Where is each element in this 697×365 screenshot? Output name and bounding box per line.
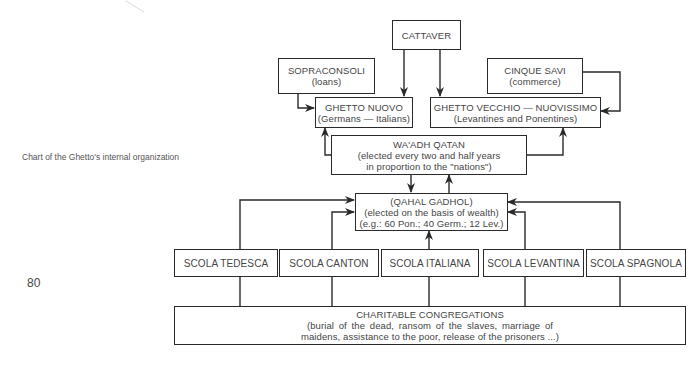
- node-title: SCOLA LEVANTINA: [487, 258, 579, 269]
- node-title: (QAHAL GADHOL): [390, 196, 472, 207]
- node-title: SCOLA ITALIANA: [389, 258, 470, 269]
- node-scola-spagnola: SCOLA SPAGNOLA: [586, 249, 686, 277]
- node-title: SCOLA TEDESCA: [184, 258, 268, 269]
- node-title: SCOLA CANTON: [289, 258, 368, 269]
- node-qahal-gadhol: (QAHAL GADHOL) (elected on the basis of …: [355, 193, 508, 231]
- node-ghetto-nuovo: GHETTO NUOVO (Germans — Italians): [315, 97, 413, 128]
- node-waadh-qatan: WA'ADH QATAN (elected every two and half…: [331, 135, 527, 175]
- node-line: in proportion to the "nations"): [366, 161, 492, 172]
- node-title: CHARITABLE CONGREGATIONS: [356, 309, 504, 320]
- node-title: GHETTO NUOVO: [325, 102, 403, 113]
- node-ghetto-vecchio: GHETTO VECCHIO — NUOVISSIMO (Levantines …: [430, 97, 601, 128]
- node-subtitle: (loans): [312, 76, 342, 87]
- node-charitable-congregations: CHARITABLE CONGREGATIONS (burial of the …: [174, 306, 686, 345]
- node-title: SOPRACONSOLI: [288, 65, 365, 76]
- node-line: (e.g.: 60 Pon.; 40 Germ.; 12 Lev.): [359, 218, 503, 229]
- node-line: maidens, assistance to the poor, release…: [301, 331, 559, 342]
- node-title: CATTAVER: [402, 30, 451, 41]
- node-line: (burial of the dead, ransom of the slave…: [307, 320, 553, 331]
- node-cinque-savi: CINQUE SAVI (commerce): [487, 58, 583, 94]
- node-cattaver: CATTAVER: [392, 20, 461, 50]
- node-scola-levantina: SCOLA LEVANTINA: [483, 249, 584, 277]
- node-title: WA'ADH QATAN: [393, 139, 465, 150]
- node-line: (elected on the basis of wealth): [364, 207, 499, 218]
- node-title: SCOLA SPAGNOLA: [590, 258, 682, 269]
- node-subtitle: (Germans — Italians): [318, 113, 410, 124]
- node-scola-canton: SCOLA CANTON: [279, 249, 379, 277]
- node-scola-italiana: SCOLA ITALIANA: [381, 249, 479, 277]
- node-scola-tedesca: SCOLA TEDESCA: [174, 249, 278, 277]
- node-title: CINQUE SAVI: [504, 65, 566, 76]
- node-subtitle: (Levantines and Ponentines): [454, 113, 578, 124]
- node-line: (elected every two and half years: [358, 150, 501, 161]
- node-subtitle: (commerce): [509, 76, 561, 87]
- node-sopraconsoli: SOPRACONSOLI (loans): [278, 58, 375, 94]
- node-title: GHETTO VECCHIO — NUOVISSIMO: [434, 102, 598, 113]
